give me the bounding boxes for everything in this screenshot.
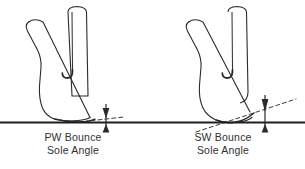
pitching-wedge-group xyxy=(26,7,124,133)
sw-topline xyxy=(189,20,251,112)
diagram-canvas: PW Bounce Sole Angle SW Bounce Sole Angl… xyxy=(0,0,305,169)
sw-hosel-hook xyxy=(222,70,232,78)
pw-hosel-line xyxy=(72,12,73,70)
sw-hosel-line xyxy=(232,12,233,70)
pw-head-outline xyxy=(26,22,90,121)
sw-caption: SW Bounce Sole Angle xyxy=(168,131,278,157)
sw-head-outline xyxy=(186,22,252,123)
pw-topline xyxy=(29,20,91,118)
sand-wedge-group xyxy=(186,7,296,133)
pw-caption-line2: Sole Angle xyxy=(18,144,128,157)
pw-bounce-angle-arrow xyxy=(103,104,110,133)
pw-shaft xyxy=(68,7,88,97)
sw-caption-line2: Sole Angle xyxy=(168,144,278,157)
sw-caption-line1: SW Bounce xyxy=(168,131,278,144)
pw-caption: PW Bounce Sole Angle xyxy=(18,131,128,157)
pw-caption-line1: PW Bounce xyxy=(18,131,128,144)
sw-bounce-angle-arrow xyxy=(262,95,269,133)
sw-sole-edge xyxy=(216,113,254,123)
